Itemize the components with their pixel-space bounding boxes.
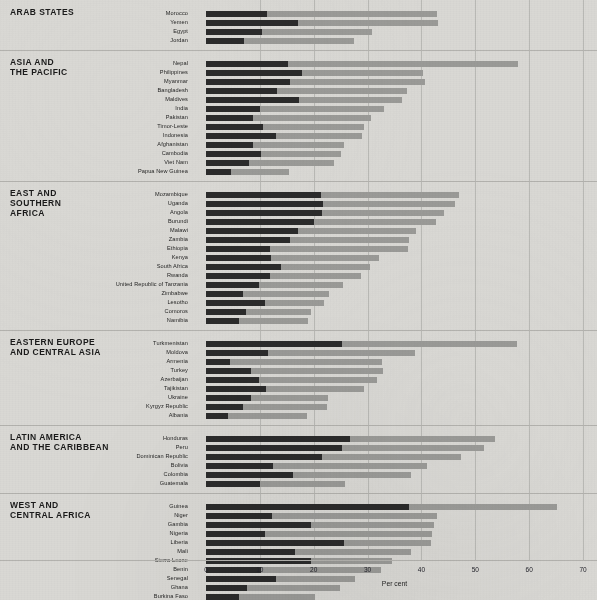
country-label: Comoros [0, 307, 192, 316]
bar-dark-segment [206, 359, 230, 365]
chart-group: EASTERN EUROPEAND CENTRAL ASIATurkmenist… [0, 330, 597, 425]
group-divider [0, 425, 597, 426]
bar-track [206, 124, 587, 130]
bar-dark-segment [206, 291, 243, 297]
bar-dark-segment [206, 463, 273, 469]
bar-track [206, 594, 587, 600]
country-label: Senegal [0, 574, 192, 583]
chart-row: Guatemala [0, 479, 597, 488]
country-label: Gambia [0, 520, 192, 529]
bar-track [206, 504, 587, 510]
chart-row: Egypt [0, 27, 597, 36]
chart-row: Peru [0, 443, 597, 452]
bar-track [206, 88, 587, 94]
country-label: Egypt [0, 27, 192, 36]
chart-row: Turkey [0, 366, 597, 375]
bar-track [206, 201, 587, 207]
chart-row: Kenya [0, 253, 597, 262]
country-label: Morocco [0, 9, 192, 18]
chart-row: Nepal [0, 59, 597, 68]
bar-dark-segment [206, 395, 251, 401]
bar-dark-segment [206, 436, 350, 442]
chart-row: Indonesia [0, 131, 597, 140]
chart-row: Zambia [0, 235, 597, 244]
bar-dark-segment [206, 20, 298, 26]
group-divider [0, 493, 597, 494]
bar-track [206, 377, 587, 383]
bar-track [206, 436, 587, 442]
chart-row: Ghana [0, 583, 597, 592]
chart-row: Moldova [0, 348, 597, 357]
chart-row: Burkina Faso [0, 592, 597, 600]
chart-row: Tajikistan [0, 384, 597, 393]
country-label: Mali [0, 547, 192, 556]
country-label: Burkina Faso [0, 592, 192, 600]
bar-track [206, 70, 587, 76]
chart-row: Kyrgyz Republic [0, 402, 597, 411]
chart-row: Rwanda [0, 271, 597, 280]
country-label: South Africa [0, 262, 192, 271]
bar-track [206, 350, 587, 356]
bar-track [206, 219, 587, 225]
bar-track [206, 282, 587, 288]
bar-dark-segment [206, 169, 231, 175]
country-label: Viet Nam [0, 158, 192, 167]
country-label: Peru [0, 443, 192, 452]
country-label: Albania [0, 411, 192, 420]
bar-track [206, 133, 587, 139]
bar-dark-segment [206, 106, 260, 112]
bar-dark-segment [206, 300, 265, 306]
chart-row: Mali [0, 547, 597, 556]
chart-row: Honduras [0, 434, 597, 443]
country-label: Colombia [0, 470, 192, 479]
country-label: Yemen [0, 18, 192, 27]
chart-row: Yemen [0, 18, 597, 27]
country-label: Ukraine [0, 393, 192, 402]
bar-dark-segment [206, 29, 262, 35]
country-label: Bangladesh [0, 86, 192, 95]
chart-group: EAST ANDSOUTHERNAFRICAMozambiqueUgandaAn… [0, 181, 597, 330]
bar-dark-segment [206, 210, 322, 216]
country-label: Pakistan [0, 113, 192, 122]
bar-dark-segment [206, 97, 299, 103]
bar-track [206, 29, 587, 35]
country-label: Cambodia [0, 149, 192, 158]
group-divider [0, 181, 597, 182]
bar-track [206, 549, 587, 555]
chart-row: Jordan [0, 36, 597, 45]
stacked-bar-chart: ARAB STATESMoroccoYemenEgyptJordanASIA A… [0, 0, 597, 600]
bar-track [206, 454, 587, 460]
bar-dark-segment [206, 219, 314, 225]
bar-dark-segment [206, 124, 263, 130]
bar-track [206, 264, 587, 270]
country-label: Uganda [0, 199, 192, 208]
bar-track [206, 540, 587, 546]
chart-row: India [0, 104, 597, 113]
bar-track [206, 210, 587, 216]
country-label: Maldives [0, 95, 192, 104]
country-label: Burundi [0, 217, 192, 226]
bar-track [206, 481, 587, 487]
bar-dark-segment [206, 70, 302, 76]
chart-row: Timor-Leste [0, 122, 597, 131]
chart-row: Bolivia [0, 461, 597, 470]
chart-row: Armenia [0, 357, 597, 366]
x-axis-tick-label: 60 [526, 566, 533, 573]
bar-dark-segment [206, 318, 239, 324]
country-label: Turkey [0, 366, 192, 375]
country-label: Lesotho [0, 298, 192, 307]
bar-dark-segment [206, 61, 288, 67]
bar-dark-segment [206, 413, 228, 419]
country-label: Kenya [0, 253, 192, 262]
country-label: United Republic of Tanzania [0, 280, 192, 289]
bar-dark-segment [206, 445, 342, 451]
chart-row: Benin [0, 565, 597, 574]
chart-row: Pakistan [0, 113, 597, 122]
country-label: Dominican Republic [0, 452, 192, 461]
bar-track [206, 531, 587, 537]
bar-dark-segment [206, 309, 246, 315]
bar-dark-segment [206, 133, 276, 139]
bar-track [206, 368, 587, 374]
bar-dark-segment [206, 350, 268, 356]
country-label: Philippines [0, 68, 192, 77]
